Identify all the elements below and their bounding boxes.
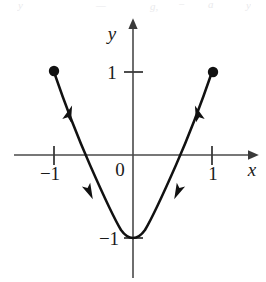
upper-left-arrow-icon <box>62 104 76 122</box>
labels-group: y x 0 −1 1 1 −1 <box>40 23 257 249</box>
x-axis-label: x <box>247 159 257 180</box>
y-axis-label: y <box>106 23 117 44</box>
upper-right-arrow-icon <box>191 104 205 122</box>
x-tick-label-positive-one: 1 <box>208 163 218 184</box>
svg-text:—: — <box>95 0 106 11</box>
y-tick-label-positive-one: 1 <box>107 62 117 83</box>
right-endpoint-dot <box>208 67 218 77</box>
svg-text:y: y <box>17 0 23 11</box>
bleed-through-artifact: y — g, − a y <box>17 0 251 12</box>
y-tick-label-negative-one: −1 <box>99 228 119 249</box>
svg-text:−: − <box>178 0 185 10</box>
lower-right-arrow-icon <box>170 183 185 201</box>
figure-canvas: y — g, − a y y x 0 − <box>0 0 266 282</box>
svg-text:y: y <box>245 0 251 11</box>
x-tick-label-negative-one: −1 <box>40 163 60 184</box>
svg-text:g,: g, <box>150 0 159 12</box>
axes-group <box>14 27 250 278</box>
origin-label: 0 <box>115 159 125 180</box>
lower-left-arrow-icon <box>82 183 97 201</box>
left-endpoint-dot <box>49 66 59 76</box>
svg-text:a: a <box>208 0 214 10</box>
parabola-figure: y — g, − a y y x 0 − <box>0 0 266 282</box>
